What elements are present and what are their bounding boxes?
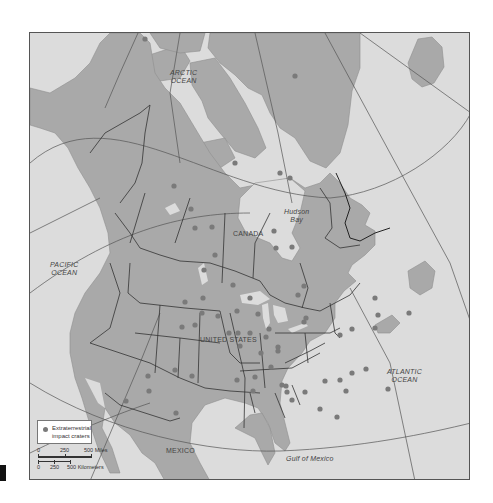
crater-marker — [266, 326, 271, 331]
crater-marker — [192, 225, 197, 230]
crater-marker — [182, 299, 187, 304]
iceland-landmass — [408, 37, 444, 87]
crater-marker — [234, 377, 239, 382]
label-atlantic-ocean: ATLANTIC OCEAN — [387, 368, 422, 384]
label-arctic-ocean-line2: OCEAN — [170, 77, 197, 85]
crater-marker — [317, 406, 322, 411]
crater-marker — [189, 373, 194, 378]
label-atlantic-ocean-line2: OCEAN — [387, 376, 422, 384]
crater-marker — [289, 397, 294, 402]
crater-marker — [275, 348, 280, 353]
scale-tick — [65, 454, 66, 458]
crater-marker — [142, 36, 147, 41]
newfoundland — [408, 261, 435, 295]
label-mexico: MEXICO — [166, 447, 195, 455]
label-atlantic-ocean-line1: ATLANTIC — [387, 368, 422, 376]
crater-marker — [292, 73, 297, 78]
crater-marker — [179, 324, 184, 329]
label-pacific-ocean-line2: OCEAN — [50, 269, 79, 277]
scale-km-0: 0 — [37, 464, 40, 470]
legend-line2: impact craters — [52, 432, 91, 440]
side-bar-marker — [0, 465, 6, 481]
crater-marker — [250, 388, 255, 393]
label-hudson-bay: Hudson Bay — [284, 208, 309, 224]
map-frame: ARCTIC OCEAN PACIFIC OCEAN ATLANTIC OCEA… — [29, 32, 470, 480]
crater-marker — [199, 310, 204, 315]
label-canada: CANADA — [233, 230, 263, 238]
crater-marker — [172, 367, 177, 372]
crater-marker — [263, 334, 268, 339]
label-gulf-of-mexico: Gulf of Mexico — [286, 455, 334, 463]
scale-tick — [38, 454, 39, 458]
scale-miles-0: 0 — [37, 447, 40, 453]
crater-marker — [146, 388, 151, 393]
crater-marker — [173, 410, 178, 415]
map-canvas — [30, 33, 470, 480]
crater-marker — [200, 295, 205, 300]
scale-tick — [91, 454, 92, 458]
label-united-states: UNITED STATES — [200, 336, 257, 344]
crater-marker — [212, 252, 217, 257]
crater-marker — [247, 295, 252, 300]
crater-marker — [372, 325, 377, 330]
crater-marker — [343, 388, 348, 393]
label-hudson-bay-line2: Bay — [284, 216, 309, 224]
scale-miles-500: 500 Miles — [84, 447, 108, 453]
crater-marker — [255, 311, 260, 316]
crater-marker — [237, 343, 242, 348]
crater-marker — [322, 378, 327, 383]
legend-text: Extraterrestrial impact craters — [52, 424, 91, 440]
crater-marker — [289, 244, 294, 249]
nova-scotia — [375, 315, 400, 333]
crater-marker — [258, 350, 263, 355]
crater-marker — [273, 245, 278, 250]
crater-marker — [192, 322, 197, 327]
crater-marker — [226, 330, 231, 335]
crater-marker — [271, 228, 276, 233]
crater-marker — [284, 389, 289, 394]
north-arrow: N — [435, 478, 449, 480]
crater-marker — [145, 373, 150, 378]
crater-marker — [406, 310, 411, 315]
crater-marker — [209, 224, 214, 229]
label-pacific-ocean-line1: PACIFIC — [50, 261, 79, 269]
crater-symbol-icon — [43, 427, 48, 432]
crater-marker — [247, 330, 252, 335]
legend-line1: Extraterrestrial — [52, 424, 91, 432]
crater-marker — [188, 206, 193, 211]
crater-marker — [337, 332, 342, 337]
crater-marker — [215, 313, 220, 318]
label-pacific-ocean: PACIFIC OCEAN — [50, 261, 79, 277]
crater-marker — [268, 364, 273, 369]
label-hudson-bay-line1: Hudson — [284, 208, 309, 216]
crater-marker — [334, 414, 339, 419]
crater-marker — [303, 315, 308, 320]
crater-marker — [349, 370, 354, 375]
crater-marker — [201, 267, 206, 272]
crater-marker — [349, 326, 354, 331]
crater-marker — [287, 175, 292, 180]
crater-marker — [232, 160, 237, 165]
crater-marker — [301, 283, 306, 288]
label-arctic-ocean: ARCTIC OCEAN — [170, 69, 197, 85]
label-arctic-ocean-line1: ARCTIC — [170, 69, 197, 77]
crater-marker — [171, 183, 176, 188]
crater-marker — [302, 389, 307, 394]
crater-marker — [283, 383, 288, 388]
crater-marker — [372, 295, 377, 300]
crater-marker — [363, 366, 368, 371]
crater-marker — [230, 282, 235, 287]
crater-marker — [123, 398, 128, 403]
map-legend: Extraterrestrial impact craters — [37, 420, 92, 444]
north-arrow-icon — [435, 478, 449, 480]
crater-marker — [337, 377, 342, 382]
scale-miles-250: 250 — [60, 447, 69, 453]
crater-marker — [234, 308, 239, 313]
crater-marker — [252, 374, 257, 379]
crater-marker — [295, 292, 300, 297]
crater-marker — [277, 170, 282, 175]
scale-km-250: 250 — [50, 464, 59, 470]
crater-marker — [385, 386, 390, 391]
scale-bar: 0 250 500 Miles 0 250 500 Kilometers — [37, 447, 117, 477]
scale-km-500: 500 Kilometers — [67, 464, 104, 470]
